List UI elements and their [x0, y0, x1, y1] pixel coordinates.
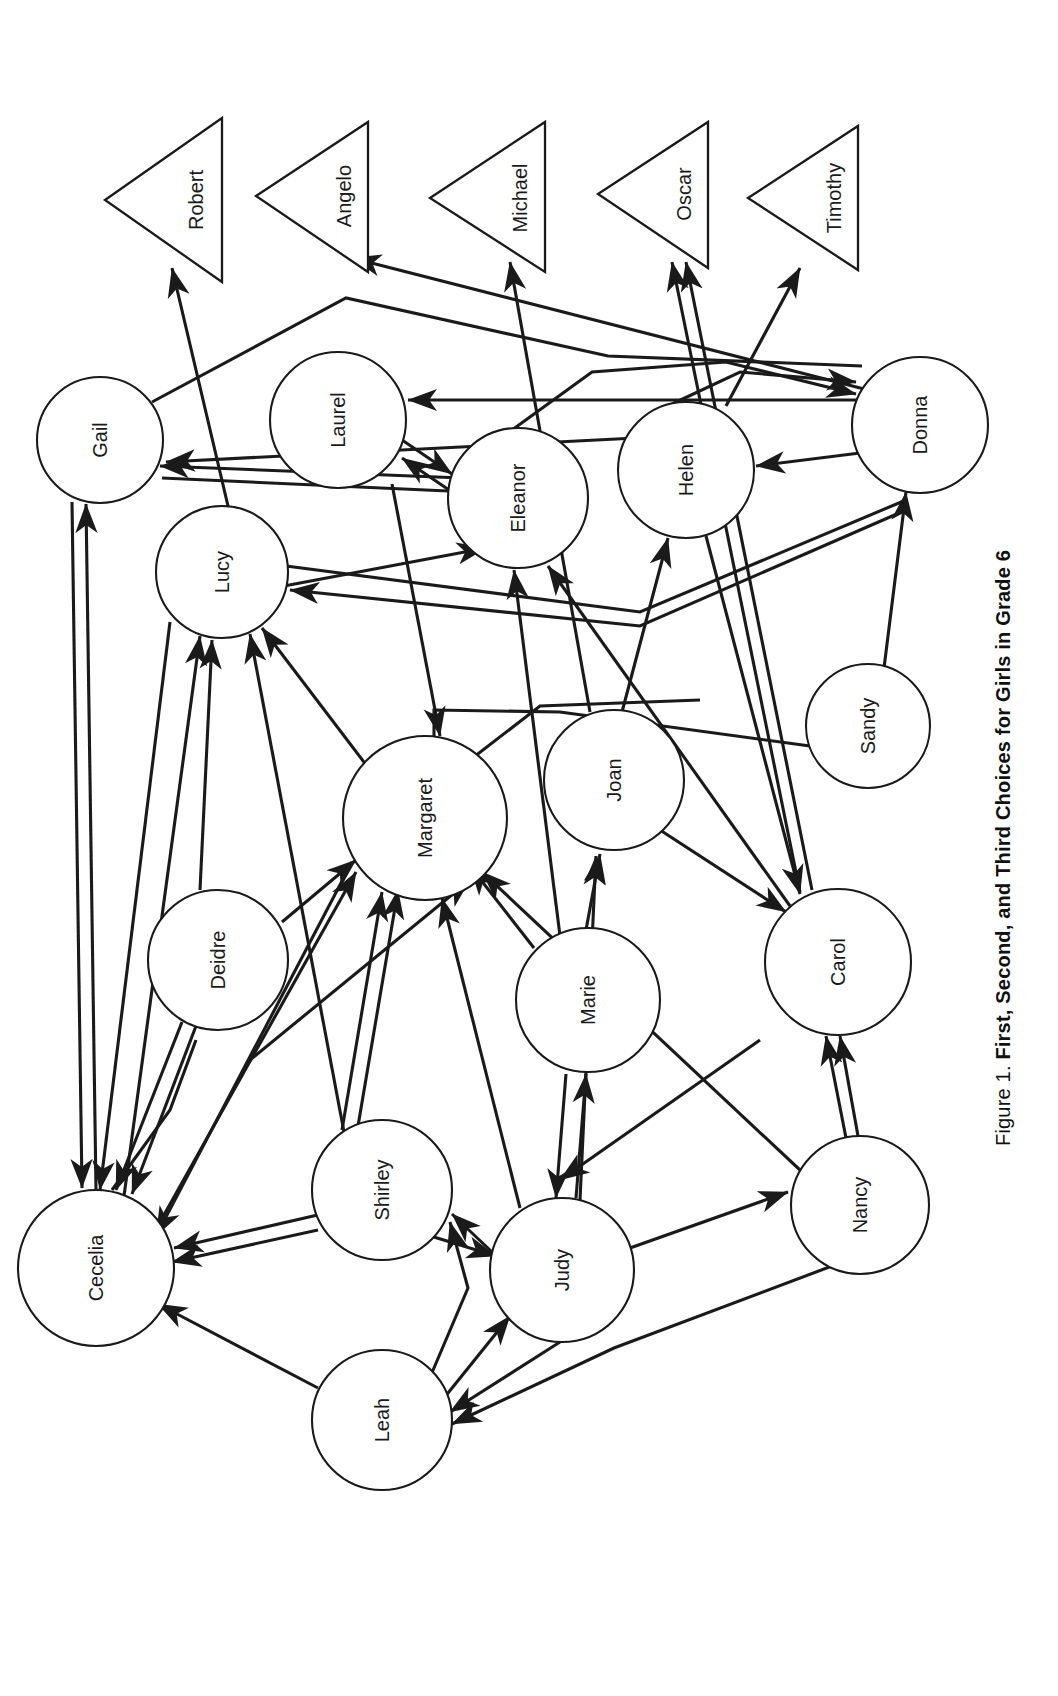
node-label-shirley: Shirley — [371, 1159, 393, 1220]
node-label-oscar: Oscar — [673, 167, 695, 221]
node-label-leah: Leah — [371, 1398, 393, 1443]
node-carol[interactable]: Carol — [765, 889, 911, 1035]
node-margaret[interactable]: Margaret — [343, 736, 507, 900]
node-label-laurel: Laurel — [327, 392, 349, 448]
node-label-margaret: Margaret — [414, 778, 436, 858]
node-gail[interactable]: Gail — [37, 377, 163, 503]
node-label-sandy: Sandy — [857, 698, 879, 755]
node-label-deidre: Deidre — [207, 931, 229, 990]
node-laurel[interactable]: Laurel — [270, 352, 406, 488]
figure-caption: Figure 1. First, Second, and Third Choic… — [948, 0, 1058, 1696]
sociogram-canvas: Robert Angelo Michael Oscar Timothy G — [0, 0, 1058, 1696]
node-label-carol: Carol — [827, 938, 849, 986]
figure-caption-text: Figure 1. First, Second, and Third Choic… — [992, 550, 1015, 1146]
node-shirley[interactable]: Shirley — [312, 1120, 452, 1260]
edge-crossing-upper-1 — [286, 500, 906, 612]
edge-helen-timothy — [726, 268, 800, 406]
edge-judy-margaret — [442, 898, 520, 1208]
node-nancy[interactable]: Nancy — [791, 1136, 929, 1274]
node-label-joan: Joan — [603, 758, 625, 801]
edge-judy-leah — [450, 1342, 560, 1412]
node-label-helen: Helen — [675, 444, 697, 496]
node-label-cecelia: Cecelia — [85, 1234, 107, 1302]
node-helen[interactable]: Helen — [618, 402, 754, 538]
node-label-timothy: Timothy — [823, 163, 845, 233]
node-timothy[interactable]: Timothy — [748, 126, 858, 270]
node-label-lucy: Lucy — [211, 551, 233, 593]
sociogram-figure: Robert Angelo Michael Oscar Timothy G — [0, 0, 1058, 1696]
edge-leah-cecelia — [158, 1304, 318, 1388]
node-lucy[interactable]: Lucy — [156, 506, 288, 638]
edge-margaret-lucy — [262, 628, 370, 770]
node-angelo[interactable]: Angelo — [256, 122, 368, 272]
node-label-michael: Michael — [509, 164, 531, 233]
node-marie[interactable]: Marie — [516, 928, 660, 1072]
edge-laurel-eleanor — [402, 440, 452, 474]
edge-shirley-cecelia-a — [174, 1214, 322, 1248]
edge-joan-carol — [660, 830, 786, 912]
node-label-gail: Gail — [89, 422, 111, 458]
edge-carol-oscar-b — [686, 262, 812, 890]
node-label-judy: Judy — [551, 1249, 573, 1291]
node-leah[interactable]: Leah — [312, 1350, 452, 1490]
edge-donna-helen — [756, 452, 868, 466]
edge-laurel-margaret — [392, 484, 440, 736]
edge-gail-cecelia — [72, 502, 82, 1188]
node-joan[interactable]: Joan — [544, 710, 684, 850]
node-deidre[interactable]: Deidre — [148, 890, 288, 1030]
figure-caption-lead: Figure 1. — [992, 1060, 1014, 1146]
node-judy[interactable]: Judy — [490, 1198, 634, 1342]
node-label-angelo: Angelo — [333, 165, 355, 227]
node-oscar[interactable]: Oscar — [598, 122, 708, 268]
figure-caption-main: First, Second, and Third Choices for Gir… — [992, 550, 1014, 1060]
edge-deidre-cecelia-b — [132, 1026, 196, 1194]
node-label-nancy: Nancy — [849, 1177, 871, 1234]
nodes-layer: Robert Angelo Michael Oscar Timothy G — [18, 118, 988, 1490]
edge-shirley-cecelia-b — [172, 1230, 318, 1262]
node-cecelia[interactable]: Cecelia — [18, 1190, 174, 1346]
node-eleanor[interactable]: Eleanor — [448, 428, 588, 568]
edge-deidre-lucy — [200, 640, 212, 890]
edge-cecelia-gail — [86, 504, 96, 1190]
node-michael[interactable]: Michael — [430, 122, 545, 272]
node-label-eleanor: Eleanor — [507, 463, 529, 532]
node-robert[interactable]: Robert — [105, 118, 222, 282]
node-label-donna: Donna — [909, 395, 931, 455]
node-label-marie: Marie — [577, 975, 599, 1025]
node-label-robert: Robert — [185, 170, 207, 230]
node-sandy[interactable]: Sandy — [806, 664, 930, 788]
edge-judy-nancy — [630, 1192, 788, 1248]
edge-leah-judy — [444, 1316, 510, 1398]
